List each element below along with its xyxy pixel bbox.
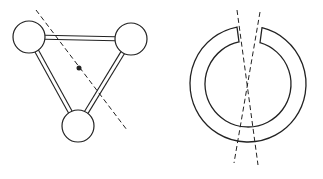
- diagram-canvas: [0, 0, 323, 179]
- center-dot: [77, 66, 82, 71]
- bond-line: [45, 39, 115, 40]
- bond-line: [38, 50, 72, 111]
- bond-line: [35, 52, 69, 113]
- split-ring-figure: [190, 10, 306, 165]
- triangle-molecule-figure: [13, 10, 147, 142]
- atom-circle: [62, 110, 94, 142]
- atom-circle: [115, 23, 147, 55]
- atom-circle: [13, 21, 45, 53]
- bond-line: [88, 54, 124, 114]
